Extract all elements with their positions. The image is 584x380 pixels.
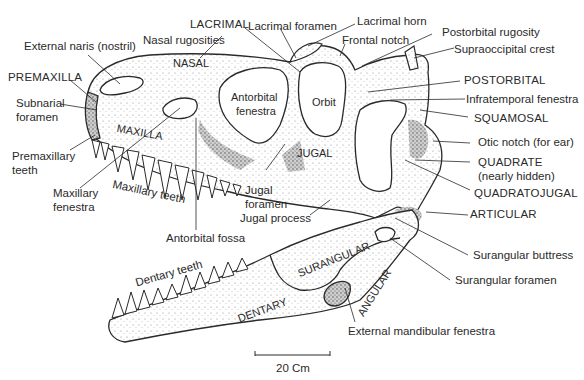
label-antorbital-fossa: Antorbital fossa	[166, 232, 245, 245]
label-jugal-foramen-line1: Jugal	[245, 184, 273, 197]
label-otic-notch: Otic notch (for ear)	[478, 136, 574, 149]
label-squamosal: SQUAMOSAL	[474, 112, 549, 125]
bone-label-antorbital-fenestra-line1: Antorbital	[231, 91, 277, 103]
label-maxillary-fenestra-line2: fenestra	[53, 201, 95, 214]
bone-label-antorbital-fenestra-line2: fenestra	[236, 105, 276, 117]
scale-bar-label: 20 Cm	[276, 362, 310, 375]
label-lacrimal: LACRIMAL	[190, 18, 249, 31]
label-quadratojugal: QUADRATOJUGAL	[474, 187, 578, 200]
label-postorbital: POSTORBITAL	[464, 74, 546, 87]
label-subnarial-foramen-line2: foramen	[16, 111, 58, 124]
label-jugal-foramen-line2: foramen	[245, 198, 287, 211]
label-postorbital-rugosity: Postorbital rugosity	[442, 26, 540, 39]
label-surangular-buttress: Surangular buttress	[473, 249, 573, 262]
bone-label-orbit: Orbit	[312, 96, 336, 108]
label-external-naris: External naris (nostril)	[24, 40, 136, 53]
label-premaxillary-teeth-line1: Premaxillary	[12, 150, 75, 163]
label-quadrate-line1: QUADRATE	[478, 156, 543, 169]
label-maxillary-fenestra-line1: Maxillary	[53, 187, 98, 200]
label-surangular-foramen: Surangular foramen	[455, 274, 557, 287]
label-subnarial-foramen-line1: Subnarial	[16, 97, 65, 110]
bone-label-jugal: JUGAL	[297, 147, 332, 159]
label-frontal-notch: Frontal notch	[342, 34, 409, 47]
bone-label-nasal: NASAL	[173, 57, 209, 69]
label-articular: ARTICULAR	[470, 208, 537, 221]
label-supraoccipital-crest: Supraoccipital crest	[454, 43, 554, 56]
label-lacrimal-foramen: Lacrimal foramen	[248, 20, 337, 33]
label-nasal-rugosities: Nasal rugosities	[143, 34, 225, 47]
label-premaxilla: PREMAXILLA	[8, 71, 82, 84]
label-premaxillary-teeth-line2: teeth	[12, 164, 38, 177]
label-jugal-process: Jugal process	[240, 212, 311, 225]
scale-bar-graphic	[255, 351, 330, 356]
label-infratemporal-fenestra: Infratemporal fenestra	[466, 93, 579, 106]
skull-diagram: External naris (nostril) PREMAXILLA Subn…	[0, 0, 584, 380]
label-lacrimal-horn: Lacrimal horn	[357, 15, 427, 28]
label-quadrate-line2: (nearly hidden)	[478, 170, 555, 183]
label-external-mandibular-fenestra: External mandibular fenestra	[348, 325, 495, 338]
